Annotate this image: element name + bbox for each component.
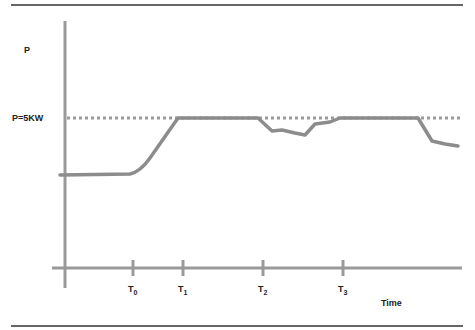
t1-label: T1 [178,284,187,296]
t2-sub: 2 [264,289,268,296]
reference-label: P=5KW [12,113,43,123]
t0-label: T0 [128,284,137,296]
x-axis-label: Time [381,298,402,308]
t2-label: T2 [258,284,267,296]
y-axis-label: P [24,45,30,55]
t3-label: T3 [338,284,347,296]
t1-sub: 1 [184,289,188,296]
t0-sub: 0 [134,289,138,296]
power-time-diagram [0,0,475,330]
power-curve [60,118,458,175]
t3-sub: 3 [344,289,348,296]
